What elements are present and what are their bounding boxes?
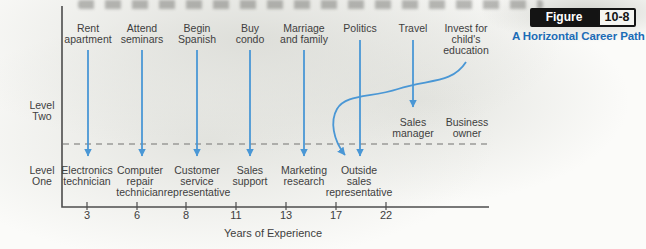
level-axis-label: LevelTwo [29,100,54,122]
figure-badge-label: Figure [530,8,598,27]
figure-badge: Figure 10-8 [530,8,636,27]
job-label-level-one: Electronicstechnician [61,165,112,187]
tick-label: 11 [230,210,241,221]
event-label: Marriageand family [280,23,328,45]
tick-label: 3 [84,210,90,221]
tick-label: 8 [183,210,189,221]
event-label: Travel [399,23,428,34]
job-label-level-two: Salesmanager [392,117,433,139]
event-label: BeginSpanish [178,23,216,45]
event-label: Buycondo [236,23,265,45]
event-label: Politics [343,23,376,34]
event-label: Invest forchild'seducation [443,23,489,56]
job-label-level-two: Businessowner [446,117,489,139]
tick-label: 22 [380,210,392,221]
job-label-level-one: Customerservicerepresentative [164,165,231,198]
figure-panel: RentapartmentAttendseminarsBeginSpanishB… [0,0,646,249]
x-axis-label: Years of Experience [224,227,322,239]
job-label-level-one: Computerrepairtechnician [116,165,163,198]
job-label-level-one: Salessupport [232,165,267,187]
tick-label: 6 [134,210,140,221]
job-label-level-one: Outsidesalesrepresentative [326,165,393,198]
curved-event-arrow [333,62,466,155]
figure-badge-number: 10-8 [598,8,636,27]
figure-title: A Horizontal Career Path [512,30,645,42]
level-axis-label: LevelOne [29,165,54,187]
job-label-level-one: Marketingresearch [281,165,327,187]
tick-label: 13 [280,210,292,221]
event-label: Attendseminars [121,23,164,45]
tick-label: 17 [330,210,342,221]
event-label: Rentapartment [64,23,111,45]
